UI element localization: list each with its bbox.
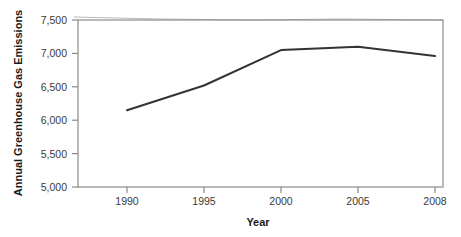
y-tick-label-6000: 6,000 <box>41 114 67 126</box>
y-tick-label-7500: 7,500 <box>41 14 67 26</box>
y-axis-ticks <box>72 20 78 187</box>
x-tick-label-1995: 1995 <box>192 195 216 207</box>
x-tick-label-2008: 2008 <box>423 195 447 207</box>
x-tick-label-2005: 2005 <box>346 195 370 207</box>
y-tick-label-6500: 6,500 <box>41 81 67 93</box>
y-tick-label-5500: 5,500 <box>41 148 67 160</box>
plot-frame <box>78 20 443 187</box>
y-tick-label-5000: 5,000 <box>41 181 67 193</box>
x-tick-label-2000: 2000 <box>269 195 293 207</box>
y-tick-label-7000: 7,000 <box>41 47 67 59</box>
line-chart-figure: 7,500 7,000 6,500 6,000 5,500 5,000 1990… <box>0 0 461 237</box>
y-axis-title: Annual Greenhouse Gas Emissions <box>12 10 24 196</box>
data-series-line <box>127 47 435 110</box>
x-axis-ticks <box>127 187 435 193</box>
x-axis-title: Year <box>246 216 270 228</box>
x-tick-label-1990: 1990 <box>115 195 139 207</box>
chart-canvas: 7,500 7,000 6,500 6,000 5,500 5,000 1990… <box>0 0 461 237</box>
